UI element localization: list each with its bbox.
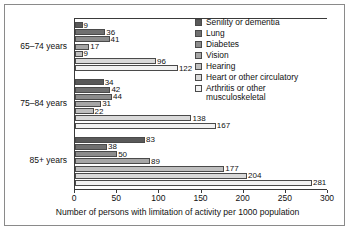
legend-item-label: Lung: [206, 29, 225, 38]
x-axis-tick-label: 50: [111, 194, 120, 203]
bar-value-label: 17: [90, 43, 99, 51]
bar-value-label: 122: [179, 65, 192, 73]
bar[interactable]: [75, 29, 105, 35]
x-axis-title: Number of persons with limitation of act…: [15, 207, 340, 217]
legend-item[interactable]: Arthritis or other musculoskeletal: [195, 84, 325, 103]
bar[interactable]: [75, 115, 191, 121]
y-axis-category-labels: 65–74 years75–84 years85+ years: [5, 18, 71, 190]
legend-item[interactable]: Heart or other circulatory: [195, 73, 325, 82]
bar[interactable]: [75, 158, 150, 164]
legend-item-label: Senility or dementia: [206, 18, 280, 27]
bar-value-label: 281: [313, 179, 326, 187]
legend-swatch-icon: [195, 85, 202, 92]
bar[interactable]: [75, 79, 104, 85]
legend-item[interactable]: Vision: [195, 51, 325, 60]
bar-value-label: 41: [111, 36, 120, 44]
x-axis-tick-label: 0: [72, 194, 77, 203]
x-axis-tick-label: 250: [278, 194, 292, 203]
legend-swatch-icon: [195, 30, 202, 37]
legend-swatch-icon: [195, 63, 202, 70]
chart-frame: 65–74 years75–84 years85+ years 93641179…: [4, 4, 345, 226]
bar[interactable]: [75, 173, 247, 179]
bar-value-label: 44: [113, 93, 122, 101]
legend-swatch-icon: [195, 19, 202, 26]
x-axis-tick-label: 100: [151, 194, 165, 203]
legend-swatch-icon: [195, 52, 202, 59]
bar[interactable]: [75, 166, 224, 172]
y-axis-label: 75–84 years: [20, 99, 67, 108]
bar[interactable]: [75, 22, 83, 28]
bar-group: 83385089177204281: [75, 137, 327, 186]
bar-value-label: 167: [217, 122, 230, 130]
bar-value-label: 31: [102, 100, 111, 108]
legend-item[interactable]: Hearing: [195, 62, 325, 71]
bar[interactable]: [75, 123, 216, 129]
bar[interactable]: [75, 144, 107, 150]
x-axis: 050100150200250300: [74, 190, 327, 206]
x-axis-tick-label: 200: [236, 194, 250, 203]
y-axis-label: 85+ years: [29, 156, 67, 165]
bar-value-label: 83: [146, 136, 155, 144]
bar[interactable]: [75, 65, 178, 71]
bar[interactable]: [75, 151, 117, 157]
legend-swatch-icon: [195, 74, 202, 81]
bar[interactable]: [75, 87, 110, 93]
bar[interactable]: [75, 51, 83, 57]
chart-legend: Senility or dementiaLungDiabetesVisionHe…: [195, 18, 325, 104]
legend-item[interactable]: Senility or dementia: [195, 18, 325, 27]
bar[interactable]: [75, 108, 94, 114]
legend-item-label: Diabetes: [206, 40, 239, 49]
legend-item-label: Heart or other circulatory: [206, 73, 298, 82]
y-axis-label: 65–74 years: [20, 42, 67, 51]
legend-item-label: Vision: [206, 51, 229, 60]
legend-item[interactable]: Diabetes: [195, 40, 325, 49]
legend-swatch-icon: [195, 41, 202, 48]
x-axis-tick-label: 300: [320, 194, 334, 203]
legend-item-label: Arthritis or other musculoskeletal: [206, 84, 325, 103]
x-axis-tick-label: 150: [193, 194, 207, 203]
bar[interactable]: [75, 58, 156, 64]
legend-item[interactable]: Lung: [195, 29, 325, 38]
bar[interactable]: [75, 180, 312, 186]
legend-item-label: Hearing: [206, 62, 235, 71]
